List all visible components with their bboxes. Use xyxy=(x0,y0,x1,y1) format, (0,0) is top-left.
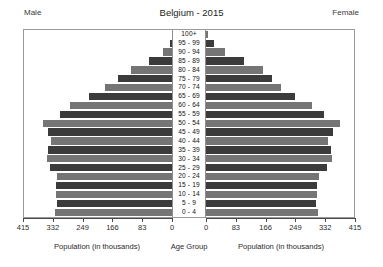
female-bar-cell xyxy=(206,146,355,155)
male-bar[interactable] xyxy=(131,66,172,73)
female-bar[interactable] xyxy=(206,182,317,189)
female-bar-cell xyxy=(206,110,355,119)
age-group-label-cell: 15 - 19 xyxy=(172,181,206,190)
female-bar[interactable] xyxy=(206,66,263,73)
female-bar[interactable] xyxy=(206,111,324,118)
female-bar[interactable] xyxy=(206,48,225,55)
male-bar[interactable] xyxy=(149,57,172,64)
age-group-label-cell: 35 - 39 xyxy=(172,146,206,155)
male-bar-cell xyxy=(23,110,172,119)
axis-tick-label-right: 83 xyxy=(232,223,240,232)
male-bar[interactable] xyxy=(57,173,172,180)
female-bar-cell xyxy=(206,83,355,92)
female-bar[interactable] xyxy=(206,137,328,144)
male-bar[interactable] xyxy=(50,164,172,171)
pyramid-row: 75 - 79 xyxy=(23,74,355,83)
female-bar-cell xyxy=(206,57,355,66)
male-bar[interactable] xyxy=(57,200,172,207)
age-group-label-cell: 60 - 64 xyxy=(172,101,206,110)
age-group-label: 95 - 99 xyxy=(178,40,200,47)
x-axis-title-right: Population (in thousands) xyxy=(238,242,324,251)
female-bar[interactable] xyxy=(206,40,214,47)
age-group-label-cell: 90 - 94 xyxy=(172,48,206,57)
axis-tick-right xyxy=(236,218,237,222)
male-bar-cell xyxy=(23,92,172,101)
pyramid-row: 50 - 54 xyxy=(23,119,355,128)
pyramid-row: 20 - 24 xyxy=(23,172,355,181)
age-group-label-cell: 65 - 69 xyxy=(172,92,206,101)
male-bar[interactable] xyxy=(43,120,172,127)
axis-tick-left xyxy=(83,218,84,222)
age-group-label: 10 - 14 xyxy=(178,191,200,198)
female-bar-cell xyxy=(206,199,355,208)
male-bar[interactable] xyxy=(70,102,172,109)
age-group-label: 100+ xyxy=(181,31,196,38)
axis-tick-right xyxy=(355,218,356,222)
male-bar[interactable] xyxy=(56,191,172,198)
male-bar[interactable] xyxy=(118,75,172,82)
x-axis-male xyxy=(23,218,172,224)
male-bar[interactable] xyxy=(163,48,172,55)
axis-tick-left xyxy=(112,218,113,222)
male-bar[interactable] xyxy=(48,146,172,153)
female-bar[interactable] xyxy=(206,191,317,198)
female-bar[interactable] xyxy=(206,31,208,38)
axis-tick-label-left: 0 xyxy=(170,223,174,232)
age-group-label-cell: 20 - 24 xyxy=(172,172,206,181)
male-bar[interactable] xyxy=(105,84,172,91)
male-bar[interactable] xyxy=(60,111,172,118)
female-bar[interactable] xyxy=(206,164,327,171)
female-bar-cell xyxy=(206,66,355,75)
age-group-label-cell: 45 - 49 xyxy=(172,128,206,137)
axis-tick-label-right: 166 xyxy=(259,223,272,232)
male-bar-cell xyxy=(23,30,172,39)
female-bar[interactable] xyxy=(206,173,319,180)
male-bar-cell xyxy=(23,154,172,163)
age-group-label: 65 - 69 xyxy=(178,93,200,100)
male-bar[interactable] xyxy=(55,209,172,216)
male-bar-cell xyxy=(23,57,172,66)
female-bar[interactable] xyxy=(206,75,272,82)
female-bar[interactable] xyxy=(206,155,332,162)
axis-tick-label-left: 249 xyxy=(76,223,89,232)
female-bar[interactable] xyxy=(206,209,318,216)
female-bar[interactable] xyxy=(206,93,295,100)
age-group-label: 70 - 74 xyxy=(178,84,200,91)
female-bar-cell xyxy=(206,190,355,199)
female-bar[interactable] xyxy=(206,120,340,127)
pyramid-row: 25 - 29 xyxy=(23,163,355,172)
female-bar[interactable] xyxy=(206,102,312,109)
male-bar[interactable] xyxy=(47,155,172,162)
male-bar[interactable] xyxy=(56,182,172,189)
male-bar[interactable] xyxy=(51,137,172,144)
pyramid-row: 30 - 34 xyxy=(23,154,355,163)
age-group-label-cell: 55 - 59 xyxy=(172,110,206,119)
female-bar-cell xyxy=(206,137,355,146)
pyramid-row: 100+ xyxy=(23,30,355,39)
male-bar-cell xyxy=(23,137,172,146)
pyramid-row: 65 - 69 xyxy=(23,92,355,101)
age-group-label: 40 - 44 xyxy=(178,138,200,145)
age-group-label-cell: 5 - 9 xyxy=(172,199,206,208)
female-bar-cell xyxy=(206,154,355,163)
age-group-label: 45 - 49 xyxy=(178,129,200,136)
male-bar-cell xyxy=(23,181,172,190)
age-group-label: 80 - 84 xyxy=(178,67,200,74)
female-bar-cell xyxy=(206,74,355,83)
female-bar-cell xyxy=(206,30,355,39)
pyramid-row: 45 - 49 xyxy=(23,128,355,137)
female-bar[interactable] xyxy=(206,146,331,153)
male-bar[interactable] xyxy=(48,128,172,135)
pyramid-rows: 100+95 - 9990 - 9485 - 8980 - 8475 - 797… xyxy=(23,30,355,217)
female-bar[interactable] xyxy=(206,84,281,91)
pyramid-row: 10 - 14 xyxy=(23,190,355,199)
female-bar[interactable] xyxy=(206,128,333,135)
age-group-label: 75 - 79 xyxy=(178,76,200,83)
male-bar[interactable] xyxy=(89,93,172,100)
age-group-label-cell: 40 - 44 xyxy=(172,137,206,146)
population-pyramid-chart: Male Female Belgium - 2015 100+95 - 9990… xyxy=(0,0,383,267)
axis-tick-right xyxy=(295,218,296,222)
female-bar[interactable] xyxy=(206,200,316,207)
female-bar-cell xyxy=(206,39,355,48)
female-bar[interactable] xyxy=(206,57,244,64)
